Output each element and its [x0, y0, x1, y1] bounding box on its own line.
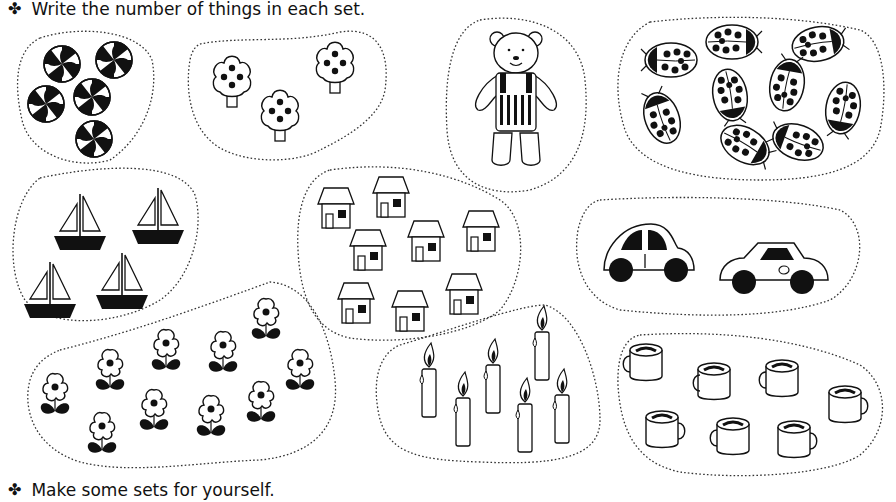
set-swirl-candies	[18, 31, 154, 163]
set-houses	[298, 167, 521, 340]
instruction-bottom-text: Make some sets for yourself.	[31, 480, 274, 500]
set-mugs	[618, 334, 883, 476]
worksheet-canvas	[0, 0, 896, 502]
set-flowers	[28, 282, 336, 468]
set-trees	[188, 31, 386, 160]
set-teddy-bear	[446, 18, 586, 192]
instruction-bottom: ✤ Make some sets for yourself.	[8, 480, 275, 500]
flower-bullet-icon: ✤	[8, 480, 21, 500]
set-cars	[577, 197, 860, 315]
set-sailboats	[13, 168, 198, 320]
set-ladybugs	[618, 17, 884, 180]
